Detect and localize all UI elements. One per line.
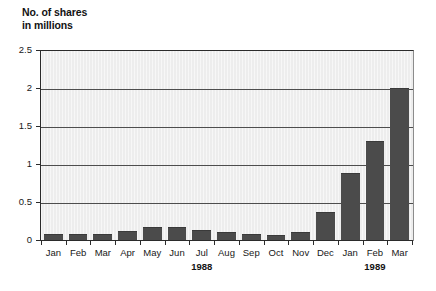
y-axis-tick-mark bbox=[36, 50, 40, 51]
x-axis-tick-mark bbox=[41, 241, 42, 245]
chart-title-line2: in millions bbox=[22, 19, 73, 31]
year-group-label: 1989 bbox=[351, 261, 399, 272]
x-axis-tick-mark bbox=[189, 241, 190, 245]
x-axis-tick-mark bbox=[165, 241, 166, 245]
x-axis-tick-mark bbox=[264, 241, 265, 245]
y-axis-tick-label: 0 bbox=[0, 234, 32, 245]
x-axis-line bbox=[40, 240, 413, 241]
bars-group bbox=[41, 51, 412, 240]
y-axis-tick-label: 1 bbox=[0, 158, 32, 169]
x-axis-tick-mark bbox=[363, 241, 364, 245]
y-axis-tick-mark bbox=[36, 240, 40, 241]
y-axis-tick-mark bbox=[36, 164, 40, 165]
bar bbox=[168, 227, 187, 240]
x-axis-tick-mark bbox=[214, 241, 215, 245]
x-axis-tick-mark bbox=[115, 241, 116, 245]
y-axis-tick-label: 2.5 bbox=[0, 44, 32, 55]
chart-title: No. of sharesin millions bbox=[22, 6, 87, 31]
chart-title-line1: No. of shares bbox=[22, 6, 87, 18]
y-axis-tick-label: 0.5 bbox=[0, 196, 32, 207]
x-axis-tick-mark bbox=[387, 241, 388, 245]
bar bbox=[69, 234, 88, 240]
bar bbox=[44, 234, 63, 240]
y-axis-tick-mark bbox=[36, 126, 40, 127]
bar bbox=[316, 212, 335, 240]
bar bbox=[267, 235, 286, 240]
x-axis-tick-mark bbox=[66, 241, 67, 245]
x-axis-tick-mark bbox=[140, 241, 141, 245]
bar bbox=[217, 232, 236, 240]
bar bbox=[390, 88, 409, 240]
x-axis-tick-mark bbox=[239, 241, 240, 245]
bar bbox=[366, 141, 385, 240]
bar-chart: No. of sharesin millions 00.511.522.5 Ja… bbox=[0, 0, 436, 291]
y-axis-tick-label: 2 bbox=[0, 82, 32, 93]
x-axis-tick-mark bbox=[412, 241, 413, 245]
y-axis-tick-mark bbox=[36, 88, 40, 89]
y-axis-tick-label: 1.5 bbox=[0, 120, 32, 131]
x-axis-tick-mark bbox=[338, 241, 339, 245]
bar bbox=[291, 232, 310, 240]
x-axis-tick-mark bbox=[288, 241, 289, 245]
year-group-label: 1988 bbox=[178, 261, 226, 272]
x-axis-tick-mark bbox=[313, 241, 314, 245]
bar bbox=[192, 230, 211, 240]
x-axis-tick-mark bbox=[90, 241, 91, 245]
x-axis-tick-label: Mar bbox=[381, 247, 418, 258]
bar bbox=[341, 173, 360, 240]
bar bbox=[143, 227, 162, 240]
bar bbox=[93, 234, 112, 240]
bar bbox=[242, 234, 261, 240]
bar bbox=[118, 231, 137, 240]
y-axis-tick-mark bbox=[36, 202, 40, 203]
